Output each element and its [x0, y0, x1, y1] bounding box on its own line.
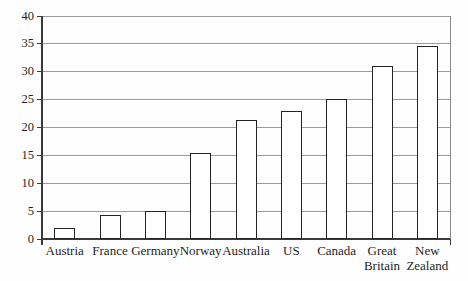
y-tick-label: 0 — [0, 232, 34, 247]
bar-chart: 0510152025303540AustriaFranceGermanyNorw… — [0, 0, 468, 281]
category-label: New Zealand — [398, 243, 456, 273]
y-tick-label: 40 — [0, 9, 34, 24]
bar-france — [100, 215, 121, 239]
plot-right-border — [450, 16, 451, 239]
plot-area: 0510152025303540AustriaFranceGermanyNorw… — [0, 0, 468, 281]
y-tick-label: 25 — [0, 92, 34, 107]
y-tick-label: 15 — [0, 148, 34, 163]
bar-australia — [236, 120, 257, 239]
bar-germany — [145, 211, 166, 239]
bar-new-zealand — [417, 46, 438, 239]
bar-great-britain — [372, 66, 393, 239]
bar-austria — [54, 228, 75, 239]
y-gridline — [42, 16, 450, 17]
bar-norway — [190, 153, 211, 239]
y-tick-label: 35 — [0, 36, 34, 51]
bar-us — [281, 111, 302, 239]
y-axis-line — [41, 16, 42, 240]
y-tick-label: 30 — [0, 64, 34, 79]
y-tick-label: 10 — [0, 176, 34, 191]
y-tick-label: 20 — [0, 120, 34, 135]
y-gridline — [42, 43, 450, 44]
y-tick-label: 5 — [0, 204, 34, 219]
bar-canada — [326, 99, 347, 239]
